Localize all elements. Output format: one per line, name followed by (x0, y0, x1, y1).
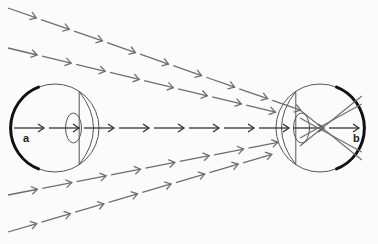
ray-2-segment (246, 105, 275, 112)
ray-2-segment (42, 56, 71, 63)
ray-2-segment (8, 48, 37, 55)
ray-2-segment (178, 89, 207, 96)
label-b: b (353, 132, 360, 144)
ray-2-segment (76, 64, 105, 71)
diagram-canvas (0, 0, 378, 244)
optics-diagram: a b (0, 0, 378, 244)
label-a: a (23, 132, 29, 144)
ray-2-segment (110, 72, 139, 79)
ray-2-segment (212, 97, 241, 104)
ray-2-segment (144, 81, 173, 88)
